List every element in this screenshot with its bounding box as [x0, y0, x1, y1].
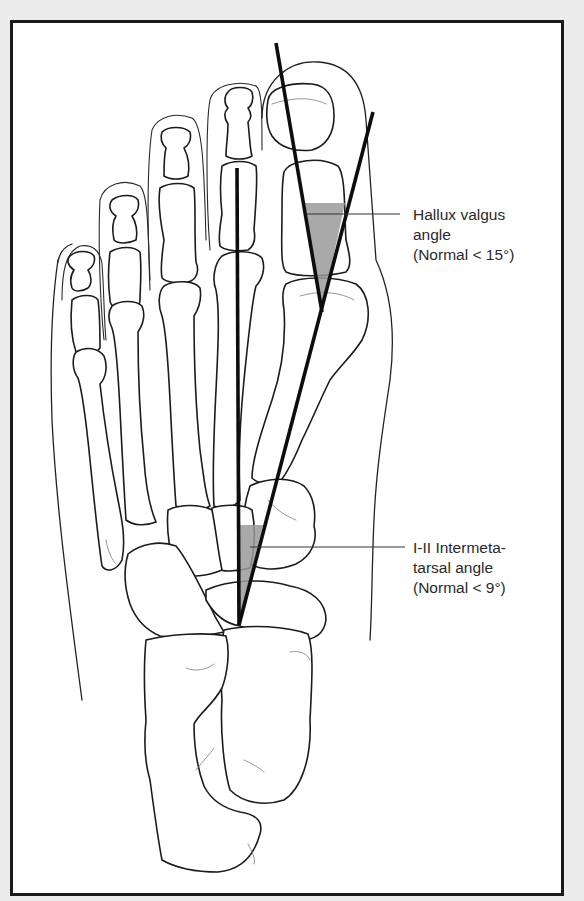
hallux-valgus-label: Hallux valgus angle (Normal < 15°): [413, 205, 514, 265]
foot-skeleton-illustration: [0, 0, 584, 901]
tarsal-bones: [125, 479, 326, 872]
second-metatarsal-axis-line: [237, 168, 239, 625]
intermetatarsal-angle-label: I-II Intermeta- tarsal angle (Normal < 9…: [413, 538, 506, 598]
